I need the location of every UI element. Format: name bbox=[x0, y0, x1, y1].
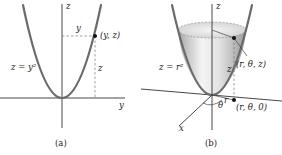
z-axis-label-b: z bbox=[215, 1, 221, 11]
point-label-rt0: (r, θ, 0) bbox=[236, 102, 267, 112]
x-axis-label-b: x bbox=[179, 123, 184, 133]
point-label-rtz: (r, θ, z) bbox=[236, 59, 266, 69]
point-label: (y, z) bbox=[100, 30, 120, 40]
horizontal-dim-label: y bbox=[75, 23, 81, 33]
caption-b: (b) bbox=[205, 138, 217, 148]
x-axis-b bbox=[179, 95, 212, 126]
point-marker-rtz bbox=[232, 36, 236, 40]
panel-b: z x z = r² (r, θ, z) (r, θ, 0) θ r z (b) bbox=[141, 1, 282, 148]
panel-a: z y y z (y, z) z = y² (a) bbox=[0, 1, 125, 148]
z-axis-label: z bbox=[65, 1, 71, 11]
figure: z y y z (y, z) z = y² (a) z bbox=[0, 0, 282, 155]
vertical-dim-label: z bbox=[97, 63, 103, 73]
curve-equation-label: z = y² bbox=[10, 62, 37, 72]
angle-label: θ bbox=[218, 100, 223, 110]
surface-equation-label: z = r² bbox=[158, 62, 184, 72]
y-axis-label: y bbox=[118, 100, 124, 110]
caption-a: (a) bbox=[55, 138, 67, 148]
vertical-dim-label-b: z bbox=[226, 64, 232, 74]
point-marker bbox=[93, 34, 97, 38]
